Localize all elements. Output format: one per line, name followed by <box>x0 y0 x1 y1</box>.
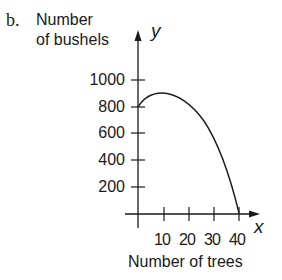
x-axis-arrow-icon <box>249 211 260 218</box>
data-curve <box>138 93 239 213</box>
y-axis-arrow-icon <box>135 30 142 41</box>
plot-area <box>0 0 282 280</box>
